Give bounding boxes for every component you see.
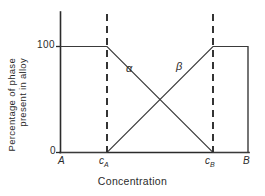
x-tick-cb-subscript: B — [210, 161, 215, 168]
x-tick-ca-subscript: A — [104, 161, 109, 168]
x-tick-label-ca: cA — [99, 156, 109, 168]
alpha-phase-curve — [61, 47, 249, 153]
x-tick-label-cb: cB — [205, 156, 215, 168]
y-axis-title-line-2: present in alloy — [17, 58, 27, 127]
x-tick-label-b: B — [243, 156, 250, 166]
y-axis-title-line-1: Percentage of phase — [6, 58, 16, 151]
y-tick-label-0: 0 — [50, 146, 56, 156]
beta-phase-label: β — [176, 60, 182, 72]
phase-diagram-figure: 100 0 A cA cB B Concentration Percentage… — [0, 0, 265, 196]
beta-phase-curve — [61, 47, 249, 153]
y-axis-title: Percentage of phase present in alloy — [0, 0, 50, 196]
x-tick-label-a: A — [58, 156, 65, 166]
alpha-phase-label: α — [126, 62, 132, 74]
